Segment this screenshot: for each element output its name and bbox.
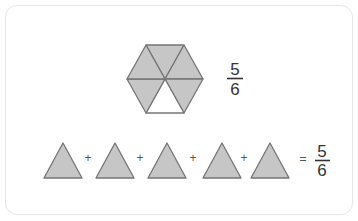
result-fraction: 5 6 [315, 142, 330, 180]
sixth-triangle-1 [44, 143, 82, 178]
plus-sign-4: + [240, 151, 247, 165]
plus-sign-2: + [136, 151, 143, 165]
sixth-triangle-4 [203, 143, 241, 178]
plus-sign-3: + [189, 151, 196, 165]
result-fraction-denominator: 6 [317, 161, 326, 180]
equals-sign: = [299, 152, 306, 166]
plus-sign-1: + [84, 151, 91, 165]
sixth-triangle-3 [148, 143, 186, 178]
sixth-triangle-5 [251, 143, 289, 178]
sixth-triangle-2 [96, 143, 134, 178]
hexagon-fraction: 5 6 [227, 60, 243, 99]
result-fraction-numerator: 5 [317, 142, 326, 161]
equation-row [44, 143, 289, 178]
hexagon-fraction-numerator: 5 [230, 60, 239, 79]
hexagon-figure [127, 45, 203, 113]
hexagon-fraction-denominator: 6 [230, 80, 239, 99]
fraction-diagram: 5 6 + + + + = 5 6 [0, 0, 358, 221]
